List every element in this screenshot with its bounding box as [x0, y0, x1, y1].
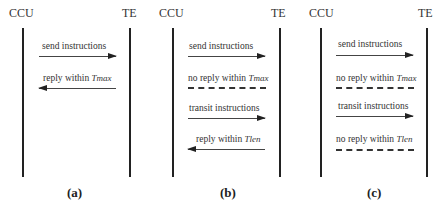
te-lifeline	[426, 28, 428, 177]
panel-caption: (c)	[367, 185, 381, 201]
message-label: no reply within Tmax	[336, 73, 416, 83]
ccu-lifeline	[320, 28, 322, 177]
arrow-right-icon	[336, 116, 413, 117]
arrow-right-icon	[336, 55, 413, 56]
dashed-line	[336, 87, 414, 89]
actor-ccu-label: CCU	[309, 6, 334, 21]
message-label: send instructions	[338, 39, 402, 49]
dashed-line	[336, 149, 414, 151]
actor-te-label: TE	[418, 6, 433, 21]
message-label: no reply within Tlen	[336, 134, 412, 144]
message-label: transit instructions	[338, 101, 408, 111]
panel-c: CCU TE send instructions no reply within…	[0, 0, 446, 210]
